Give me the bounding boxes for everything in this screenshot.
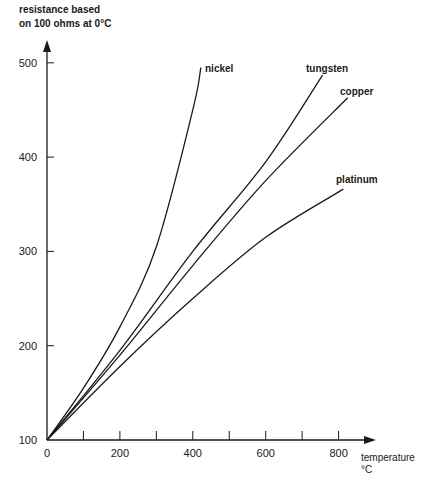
- resistance-temperature-chart: 0200400600800100200300400500 resistance …: [0, 0, 430, 486]
- y-axis-arrow-icon: [43, 40, 51, 52]
- x-axis-arrow-icon: [364, 436, 376, 444]
- series-label-tungsten: tungsten: [306, 63, 348, 74]
- line-copper: [47, 98, 348, 440]
- series-label-copper: copper: [340, 86, 373, 97]
- y-tick-label: 500: [19, 57, 37, 69]
- x-tick-label: 800: [329, 447, 347, 459]
- line-tungsten: [47, 75, 323, 440]
- x-tick-label: 600: [257, 447, 275, 459]
- x-axis-title: °C: [361, 464, 372, 475]
- x-axis-title: temperature: [361, 452, 415, 463]
- line-nickel: [47, 68, 201, 440]
- series-label-nickel: nickel: [205, 63, 234, 74]
- series-lines: [47, 68, 348, 440]
- x-tick-label: 0: [44, 447, 50, 459]
- y-axis-title: on 100 ohms at 0°C: [19, 18, 111, 29]
- series-label-platinum: platinum: [336, 174, 378, 185]
- y-axis-title: resistance based: [19, 4, 100, 15]
- x-tick-label: 200: [111, 447, 129, 459]
- y-tick-label: 300: [19, 245, 37, 257]
- x-tick-label: 400: [184, 447, 202, 459]
- line-platinum: [47, 189, 343, 440]
- y-tick-label: 200: [19, 340, 37, 352]
- y-tick-label: 400: [19, 151, 37, 163]
- y-tick-label: 100: [19, 434, 37, 446]
- axes: 0200400600800100200300400500: [19, 40, 376, 459]
